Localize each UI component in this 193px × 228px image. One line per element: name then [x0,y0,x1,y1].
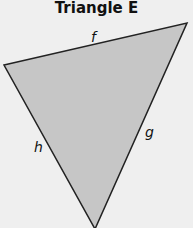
side-label-f: f [91,29,98,45]
side-label-g: g [145,124,154,140]
side-label-h: h [34,139,43,155]
triangle-diagram: f g h [0,0,193,228]
triangle-e [4,23,187,228]
